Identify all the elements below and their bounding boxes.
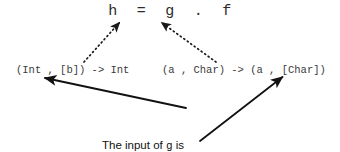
type-signature-f: (a , Char) -> (a , [Char]): [162, 64, 326, 76]
caption-line-1-code: g: [166, 140, 173, 152]
dotted-arrow-to-f: [162, 23, 217, 63]
dotted-arrow-to-g: [84, 23, 120, 63]
composition-formula: h = g . f: [0, 3, 340, 20]
caption-text: The input of g is the output of f: [102, 110, 184, 152]
type-signature-g: (Int , [b]) -> Int: [16, 64, 129, 76]
caption-line-1-pre: The input of: [102, 139, 166, 151]
caption-line-1: The input of g is: [102, 138, 184, 152]
composition-type-diagram: h = g . f (Int , [b]) -> Int (a , Char) …: [0, 0, 340, 152]
caption-line-1-post: is: [173, 139, 185, 151]
solid-arrow-to-right-signature: [200, 77, 283, 141]
solid-arrow-to-left-signature: [45, 78, 186, 108]
